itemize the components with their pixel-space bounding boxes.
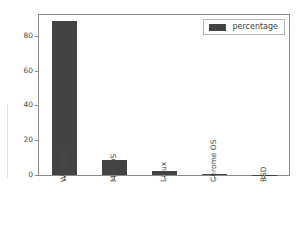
x-tick-label-windows: Windows: [64, 149, 72, 182]
x-tick-label-text: Linux: [160, 162, 168, 182]
x-tick-label-text: BSD: [260, 166, 268, 182]
x-tick-label-mac-os: Mac OS: [114, 154, 122, 182]
x-tick-label-text: Mac OS: [110, 154, 118, 182]
y-tick-mark: [35, 175, 39, 176]
plot-axes-frame: 020406080WindowsMac OSLinuxChrome OSBSD …: [38, 14, 290, 176]
legend-swatch-percentage: [209, 24, 226, 31]
chart-legend: percentage: [203, 19, 285, 35]
x-tick-label-linux: Linux: [164, 162, 172, 182]
plot-area: 020406080WindowsMac OSLinuxChrome OSBSD: [39, 15, 289, 175]
x-tick-label-text: Chrome OS: [210, 140, 218, 182]
y-tick-label: 40: [23, 102, 33, 110]
y-tick-mark: [35, 36, 39, 37]
edge-artifact-line: [7, 104, 8, 178]
y-tick-mark: [35, 140, 39, 141]
y-tick-label: 20: [23, 136, 33, 144]
chart-figure: 020406080WindowsMac OSLinuxChrome OSBSD …: [0, 0, 306, 232]
x-tick-label-text: Windows: [60, 149, 68, 182]
y-tick-mark: [35, 105, 39, 106]
y-tick-label: 80: [23, 32, 33, 40]
x-tick-label-bsd: BSD: [264, 166, 272, 182]
y-tick-label: 0: [28, 171, 33, 179]
y-tick-mark: [35, 71, 39, 72]
legend-label-percentage: percentage: [232, 23, 278, 31]
x-tick-label-chrome-os: Chrome OS: [214, 140, 222, 182]
y-tick-label: 60: [23, 67, 33, 75]
